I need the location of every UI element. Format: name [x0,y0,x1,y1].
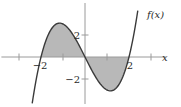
y-tick-label: 2 [74,30,80,41]
x-tick-label: −2 [33,60,48,71]
x-tick-label: 2 [127,60,133,71]
function-label: f(x) [146,9,164,20]
function-plot: −22 2−2 x f(x) [0,0,181,107]
y-tick-label: −2 [65,74,80,85]
x-axis-label: x [162,52,168,63]
